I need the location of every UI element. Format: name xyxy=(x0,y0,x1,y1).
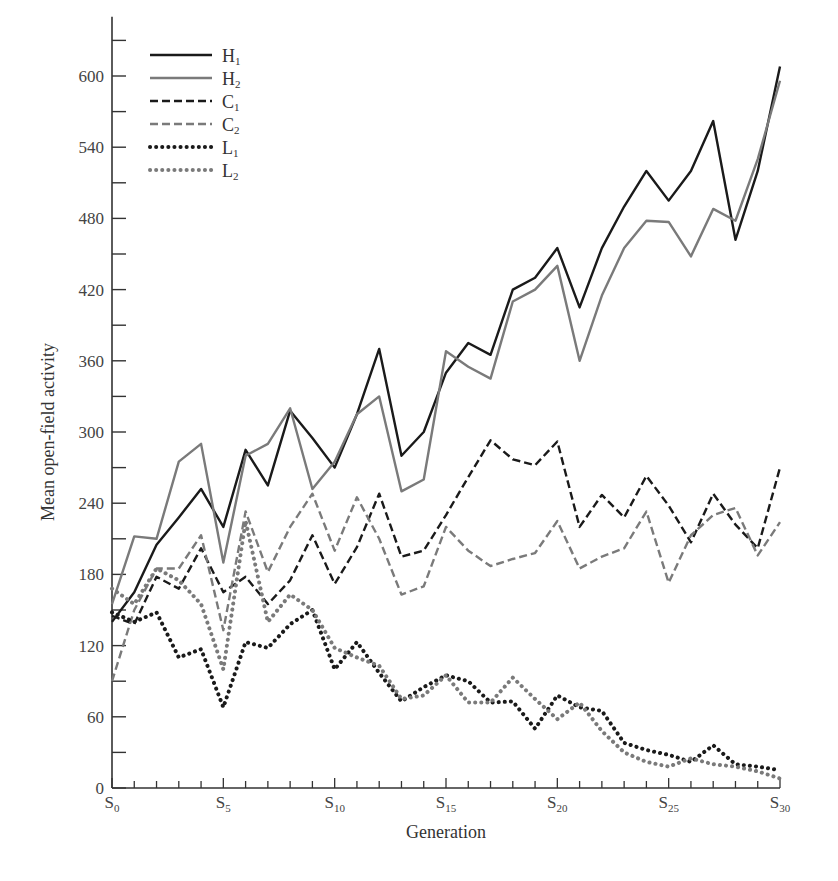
x-tick-label: S15 xyxy=(436,793,457,814)
y-tick-label: 60 xyxy=(87,708,104,727)
y-tick-label: 420 xyxy=(79,281,105,300)
y-tick-label: 240 xyxy=(79,494,105,513)
series-h2 xyxy=(112,81,780,604)
x-tick-label: S10 xyxy=(324,793,345,814)
y-tick-label: 600 xyxy=(79,67,105,86)
y-tick-label: 540 xyxy=(79,138,105,157)
x-tick-label: S5 xyxy=(216,793,231,814)
legend: H1H2C1C2L1L2 xyxy=(150,46,241,182)
legend-label-c2: C2 xyxy=(222,115,240,136)
legend-label-h2: H2 xyxy=(222,69,241,90)
x-tick-label: S20 xyxy=(547,793,568,814)
y-tick-label: 360 xyxy=(79,352,105,371)
y-tick-label: 480 xyxy=(79,209,105,228)
y-axis-title: Mean open-field activity xyxy=(38,343,58,521)
x-tick-label: S0 xyxy=(105,793,120,814)
legend-label-c1: C1 xyxy=(222,92,240,113)
legend-label-l1: L1 xyxy=(222,138,239,159)
x-tick-label: S30 xyxy=(770,793,791,814)
y-axis: 060120180240300360420480540600 xyxy=(79,17,127,798)
y-tick-label: 300 xyxy=(79,423,105,442)
series-layer xyxy=(112,67,780,779)
series-h1 xyxy=(112,67,780,622)
y-tick-label: 0 xyxy=(96,779,105,798)
legend-label-l2: L2 xyxy=(222,161,239,182)
y-tick-label: 180 xyxy=(79,565,105,584)
line-chart: 060120180240300360420480540600 S0S5S10S1… xyxy=(0,0,838,881)
x-axis: S0S5S10S15S20S25S30 xyxy=(105,778,791,814)
x-tick-label: S25 xyxy=(658,793,679,814)
y-tick-label: 120 xyxy=(79,637,105,656)
x-axis-title: Generation xyxy=(406,822,486,842)
series-c1 xyxy=(112,440,780,624)
legend-label-h1: H1 xyxy=(222,46,241,67)
